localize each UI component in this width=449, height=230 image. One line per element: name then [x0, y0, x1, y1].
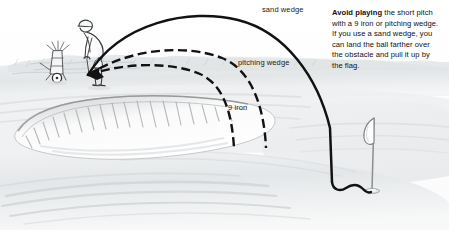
callout-lead: Avoid playing [332, 8, 382, 17]
label-sand-wedge: sand wedge [262, 6, 303, 14]
label-pitching-wedge: pitching wedge [238, 59, 289, 67]
callout-text: Avoid playing the short pitch with a 9 i… [332, 8, 440, 72]
golf-instruction-illustration: sand wedge pitching wedge 9 iron Avoid p… [0, 0, 449, 230]
label-nine-iron: 9 iron [228, 104, 247, 112]
callout-body: the short pitch with a 9 iron or pitchin… [332, 8, 438, 70]
